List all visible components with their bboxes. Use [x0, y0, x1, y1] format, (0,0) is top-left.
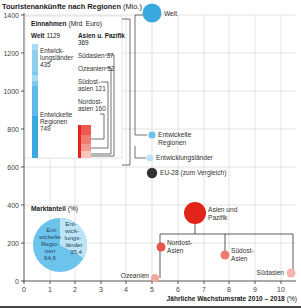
- label-entwickelte: Entwickelte: [158, 131, 192, 138]
- label-entwicklungslaender: Entwicklungsländer: [156, 154, 214, 162]
- y-tick: 1000: [3, 88, 19, 95]
- x-tick: 0: [22, 286, 26, 293]
- point-suedasien[interactable]: [287, 269, 296, 278]
- label-asien-pazifik: Asien und: [208, 206, 238, 213]
- label-asien-pazifik: Pazifik: [208, 214, 228, 221]
- y-tick: 600: [7, 164, 19, 171]
- x-tick-labels: 0 1 2 3 4 5 6 7 8 9 10: [22, 286, 285, 293]
- label-entwickelte: Regionen: [158, 139, 187, 147]
- label-eu28: EU-28 (zum Vergleich): [160, 169, 226, 177]
- asien-header: Asien u. Pazifik: [78, 32, 125, 39]
- point-suedost-asien[interactable]: [221, 251, 230, 260]
- point-eu28[interactable]: [147, 168, 157, 178]
- point-entwickelte-regionen[interactable]: [148, 131, 155, 138]
- point-asien-pazifik[interactable]: [184, 202, 206, 224]
- pie-label-a: Regio-: [41, 240, 59, 247]
- pie-label-b: länder: [65, 241, 82, 248]
- y-tick: 0: [15, 278, 19, 285]
- inset-market-share: Marktanteil(%) Ent- wickelte Regio- nen …: [31, 205, 87, 272]
- point-labels: Welt Entwickelte Regionen Entwicklungslä…: [121, 10, 285, 279]
- x-tick: 10: [277, 286, 285, 293]
- pie-label-b: Ent-: [65, 220, 76, 227]
- pie-label-a-value: 64,6: [44, 254, 57, 261]
- x-axis-label: Jährliche Wachstumsrate 2010 – 2018(%): [167, 295, 297, 303]
- x-tick: 4: [124, 286, 128, 293]
- point-nordost-asien[interactable]: [157, 243, 166, 252]
- label-nordost-asien: Asien: [167, 247, 184, 254]
- y-tick: 400: [7, 202, 19, 209]
- pie-label-a: wickelte: [38, 233, 62, 240]
- asien-total: 369: [78, 39, 89, 46]
- market-share-title: Marktanteil(%): [31, 205, 78, 213]
- label-nordost: asien 160: [78, 105, 106, 112]
- x-tick: 6: [176, 286, 180, 293]
- point-ozeanien[interactable]: [151, 274, 159, 282]
- pie-label-a: nen: [45, 247, 56, 254]
- point-welt[interactable]: [143, 4, 162, 23]
- label-entw: Entwick-: [40, 47, 64, 54]
- y-tick: 800: [7, 126, 19, 133]
- label-suedost: asien 121: [78, 85, 106, 92]
- welt-header: Welt1129: [31, 32, 61, 39]
- label-nordost-asien: Nordost-: [167, 239, 192, 246]
- point-entwicklungslaender[interactable]: [146, 154, 153, 161]
- y-tick: 200: [7, 240, 19, 247]
- x-tick: 7: [202, 286, 206, 293]
- label-suedasien: Südasien 37: [78, 52, 114, 59]
- x-tick: 2: [73, 286, 77, 293]
- pie-label-a: Ent-: [46, 226, 57, 233]
- x-tick: 3: [99, 286, 103, 293]
- x-tick: 9: [253, 286, 257, 293]
- y-tick: 1400: [3, 12, 19, 19]
- x-tick: 8: [227, 286, 231, 293]
- label-ozeanien: Ozeanien 52: [78, 65, 115, 72]
- chart-title: Touristenankünfte nach Regionen(Mio.): [2, 2, 142, 11]
- label-suedost-asien: Asien: [231, 255, 248, 262]
- label-suedasien: Südasien: [257, 269, 285, 276]
- label-ozeanien: Ozeanien: [121, 272, 150, 279]
- x-tick: 1: [48, 286, 52, 293]
- x-tick: 5: [150, 286, 154, 293]
- label-nordost: Nordost-: [78, 98, 103, 105]
- label-entw-value: 435: [40, 61, 51, 68]
- y-tick-labels: 1400 1200 1000 800 600 400 200 0: [3, 12, 19, 285]
- chart-canvas: 1400 1200 1000 800 600 400 200 0 0 1 2 3…: [0, 0, 301, 308]
- label-suedost-asien: Südost-: [231, 247, 254, 254]
- inset-revenue-title: Einnahmen(Mrd. Euro): [31, 20, 102, 28]
- pie-label-b-value: 35,4: [70, 248, 83, 255]
- label-welt: Welt: [164, 10, 177, 17]
- y-tick: 1200: [3, 50, 19, 57]
- bar-segment-entwickelte-regionen: [32, 116, 38, 158]
- pie-label-b: lungs-: [65, 234, 82, 241]
- label-entwr: Entwickelte: [40, 111, 73, 118]
- label-entwr-value: 749: [40, 125, 51, 132]
- pie-label-b: wick-: [64, 227, 79, 234]
- inset-revenue: Einnahmen(Mrd. Euro) Welt1129 Asien u. P…: [25, 16, 125, 158]
- label-suedost: Südost-: [78, 78, 100, 85]
